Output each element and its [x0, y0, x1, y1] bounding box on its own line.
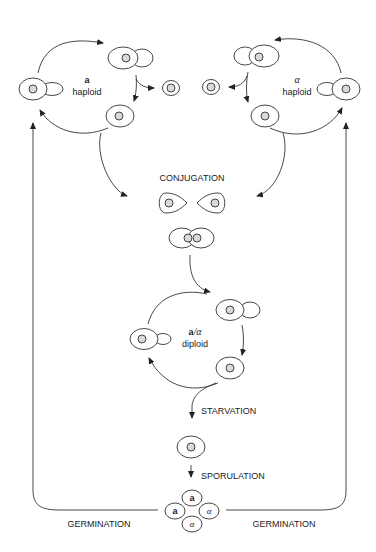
cycle-arrow — [149, 358, 218, 388]
spore-icon: α — [182, 516, 202, 532]
a-haploid-cycle: a haploid — [19, 41, 180, 133]
diploid-cycle: a/α diploid — [130, 292, 260, 388]
starvation-label: STARVATION — [201, 406, 256, 416]
ploidy-label: haploid — [72, 87, 101, 97]
mother-cell-icon — [251, 105, 279, 127]
to-diploid-arrow — [190, 255, 210, 292]
to-conjugation-arrow-left — [100, 133, 127, 196]
germination-label-right: GERMINATION — [253, 519, 316, 529]
mating-type-label: a/α — [188, 326, 202, 337]
cycle-arrow — [229, 76, 247, 87]
cycle-arrow — [40, 110, 108, 133]
ploidy-label: haploid — [282, 87, 311, 97]
sporulation-label: SPORULATION — [201, 471, 265, 481]
budding-cell-icon — [234, 45, 279, 67]
spore-icon: a — [182, 490, 202, 506]
cycle-arrow — [38, 41, 103, 73]
daughter-cell-icon — [163, 81, 180, 96]
alpha-haploid-cycle: α haploid — [203, 39, 361, 134]
budding-cell-icon — [317, 78, 360, 100]
germination-label-left: GERMINATION — [68, 519, 131, 529]
budding-cell-icon — [19, 78, 63, 100]
cycle-arrow — [275, 39, 341, 73]
to-conjugation-arrow-right — [257, 133, 285, 196]
conjugation-label: CONJUGATION — [160, 173, 225, 183]
budding-cell-icon — [216, 300, 260, 321]
yeast-life-cycle-diagram: a haploid α haploid CONJUGATION — [0, 0, 376, 552]
spore-icon: a — [165, 503, 185, 519]
cycle-arrow — [148, 292, 207, 324]
cycle-arrow — [242, 325, 244, 355]
daughter-cell-icon — [203, 80, 220, 95]
budding-cell-icon — [108, 47, 153, 69]
svg-text:α: α — [207, 506, 212, 516]
mating-type-label: α — [294, 74, 300, 85]
zygote-icon — [169, 228, 214, 248]
ploidy-label: diploid — [182, 339, 208, 349]
mother-cell-icon — [106, 105, 134, 127]
spore-icon: α — [199, 503, 219, 519]
mating-type-label: a — [84, 75, 90, 85]
budding-cell-icon — [130, 329, 171, 350]
cycle-arrow — [270, 108, 342, 134]
conjugating-cells-icon — [159, 193, 225, 213]
svg-text:α: α — [190, 519, 195, 529]
cycle-arrow — [134, 75, 136, 101]
cycle-arrow — [136, 79, 154, 88]
diploid-cell-icon — [177, 436, 205, 458]
germination-arrow-left — [33, 123, 158, 510]
mother-cell-icon — [216, 357, 244, 379]
ascus-spores: a a α α — [165, 490, 219, 532]
